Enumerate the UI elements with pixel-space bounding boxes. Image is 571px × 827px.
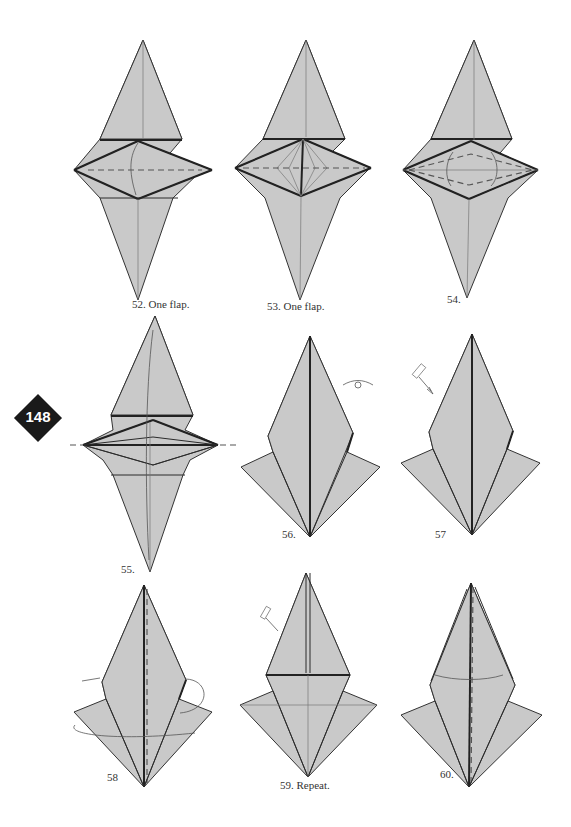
step-59-caption: 59. Repeat.: [280, 779, 330, 791]
step-57-figure: [395, 305, 555, 555]
step-56-caption: 56.: [282, 528, 296, 540]
step-52-caption: 52. One flap.: [132, 298, 189, 310]
step-55-diagram: 55.: [65, 310, 245, 580]
step-54-figure: [395, 30, 565, 310]
step-52-figure: [60, 30, 230, 310]
step-57-diagram: 57: [395, 305, 555, 555]
step-57-caption: 57: [435, 528, 446, 540]
step-56-diagram: 56.: [235, 305, 395, 555]
page-number-badge: 148: [14, 394, 62, 442]
step-54-caption: 54.: [447, 293, 461, 305]
step-55-figure: [65, 310, 245, 580]
page-number: 148: [14, 408, 62, 425]
step-59-figure: [230, 565, 400, 795]
book-page: 148 52. One flap.: [0, 0, 571, 827]
step-53-figure: [225, 30, 395, 310]
step-58-figure: [60, 575, 240, 795]
step-60-caption: 60.: [440, 768, 454, 780]
step-55-caption: 55.: [121, 563, 135, 575]
step-54-diagram: 54.: [395, 30, 565, 310]
step-60-diagram: 60.: [395, 575, 565, 795]
step-59-diagram: 59. Repeat.: [230, 565, 400, 795]
step-58-caption: 58: [107, 771, 118, 783]
repeat-steps-arrow-icon: [412, 364, 433, 394]
step-56-figure: [235, 305, 395, 555]
step-53-diagram: 53. One flap.: [225, 30, 395, 310]
step-52-diagram: 52. One flap.: [60, 30, 230, 310]
repeat-steps-arrow-icon: [260, 606, 278, 631]
step-60-figure: [395, 575, 565, 795]
step-58-diagram: 58: [60, 575, 240, 795]
